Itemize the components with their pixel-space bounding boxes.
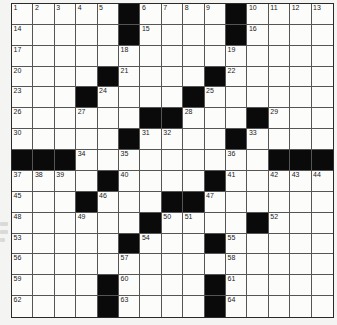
grid-cell[interactable]: 13 bbox=[312, 4, 333, 25]
grid-cell[interactable]: 9 bbox=[205, 4, 226, 25]
grid-cell[interactable] bbox=[269, 87, 290, 108]
grid-cell[interactable] bbox=[312, 46, 333, 67]
grid-cell[interactable] bbox=[312, 192, 333, 213]
grid-cell[interactable]: 62 bbox=[12, 296, 33, 317]
grid-cell[interactable] bbox=[162, 150, 183, 171]
grid-cell[interactable] bbox=[226, 213, 247, 234]
grid-cell[interactable] bbox=[33, 87, 54, 108]
grid-cell[interactable]: 55 bbox=[226, 234, 247, 255]
grid-cell[interactable] bbox=[140, 67, 161, 88]
grid-cell[interactable] bbox=[183, 296, 204, 317]
grid-cell[interactable] bbox=[33, 275, 54, 296]
grid-cell[interactable]: 3 bbox=[55, 4, 76, 25]
grid-cell[interactable]: 4 bbox=[76, 4, 97, 25]
grid-cell[interactable] bbox=[55, 46, 76, 67]
grid-cell[interactable] bbox=[269, 254, 290, 275]
grid-cell[interactable] bbox=[312, 87, 333, 108]
grid-cell[interactable] bbox=[226, 192, 247, 213]
grid-cell[interactable] bbox=[98, 234, 119, 255]
grid-cell[interactable]: 63 bbox=[119, 296, 140, 317]
grid-cell[interactable] bbox=[140, 87, 161, 108]
grid-cell[interactable]: 59 bbox=[12, 275, 33, 296]
grid-cell[interactable] bbox=[312, 67, 333, 88]
grid-cell[interactable] bbox=[247, 46, 268, 67]
grid-cell[interactable] bbox=[33, 129, 54, 150]
grid-cell[interactable]: 47 bbox=[205, 192, 226, 213]
grid-cell[interactable] bbox=[290, 46, 311, 67]
grid-cell[interactable]: 14 bbox=[12, 25, 33, 46]
grid-cell[interactable] bbox=[269, 67, 290, 88]
grid-cell[interactable]: 39 bbox=[55, 171, 76, 192]
grid-cell[interactable] bbox=[98, 254, 119, 275]
grid-cell[interactable] bbox=[140, 192, 161, 213]
grid-cell[interactable] bbox=[33, 67, 54, 88]
grid-cell[interactable] bbox=[247, 192, 268, 213]
grid-cell[interactable] bbox=[55, 254, 76, 275]
grid-cell[interactable]: 57 bbox=[119, 254, 140, 275]
grid-cell[interactable] bbox=[269, 296, 290, 317]
grid-cell[interactable]: 48 bbox=[12, 213, 33, 234]
grid-cell[interactable]: 61 bbox=[226, 275, 247, 296]
grid-cell[interactable]: 56 bbox=[12, 254, 33, 275]
grid-cell[interactable]: 11 bbox=[269, 4, 290, 25]
grid-cell[interactable] bbox=[247, 254, 268, 275]
grid-cell[interactable] bbox=[312, 296, 333, 317]
grid-cell[interactable] bbox=[119, 192, 140, 213]
grid-cell[interactable] bbox=[290, 192, 311, 213]
grid-cell[interactable] bbox=[162, 234, 183, 255]
grid-cell[interactable] bbox=[269, 234, 290, 255]
grid-cell[interactable] bbox=[205, 46, 226, 67]
grid-cell[interactable] bbox=[269, 192, 290, 213]
grid-cell[interactable]: 52 bbox=[269, 213, 290, 234]
grid-cell[interactable] bbox=[33, 108, 54, 129]
grid-cell[interactable]: 43 bbox=[290, 171, 311, 192]
grid-cell[interactable] bbox=[162, 254, 183, 275]
grid-cell[interactable] bbox=[183, 129, 204, 150]
grid-cell[interactable] bbox=[162, 25, 183, 46]
grid-cell[interactable] bbox=[55, 213, 76, 234]
grid-cell[interactable] bbox=[269, 25, 290, 46]
grid-cell[interactable] bbox=[76, 254, 97, 275]
grid-cell[interactable] bbox=[33, 213, 54, 234]
grid-cell[interactable] bbox=[33, 234, 54, 255]
grid-cell[interactable] bbox=[269, 129, 290, 150]
grid-cell[interactable] bbox=[98, 129, 119, 150]
grid-cell[interactable] bbox=[140, 296, 161, 317]
grid-cell[interactable] bbox=[290, 25, 311, 46]
grid-cell[interactable]: 54 bbox=[140, 234, 161, 255]
grid-cell[interactable] bbox=[162, 296, 183, 317]
grid-cell[interactable] bbox=[247, 67, 268, 88]
grid-cell[interactable] bbox=[247, 87, 268, 108]
grid-cell[interactable] bbox=[162, 275, 183, 296]
grid-cell[interactable] bbox=[183, 254, 204, 275]
grid-cell[interactable] bbox=[76, 129, 97, 150]
grid-cell[interactable] bbox=[205, 213, 226, 234]
grid-cell[interactable]: 50 bbox=[162, 213, 183, 234]
grid-cell[interactable] bbox=[33, 46, 54, 67]
grid-cell[interactable]: 22 bbox=[226, 67, 247, 88]
grid-cell[interactable] bbox=[55, 67, 76, 88]
grid-cell[interactable] bbox=[290, 275, 311, 296]
grid-cell[interactable] bbox=[312, 275, 333, 296]
grid-cell[interactable] bbox=[98, 213, 119, 234]
grid-cell[interactable]: 37 bbox=[12, 171, 33, 192]
grid-cell[interactable]: 1 bbox=[12, 4, 33, 25]
grid-cell[interactable] bbox=[183, 150, 204, 171]
grid-cell[interactable]: 16 bbox=[247, 25, 268, 46]
grid-cell[interactable] bbox=[140, 254, 161, 275]
grid-cell[interactable] bbox=[119, 87, 140, 108]
grid-cell[interactable] bbox=[247, 150, 268, 171]
grid-cell[interactable] bbox=[312, 234, 333, 255]
grid-cell[interactable] bbox=[290, 108, 311, 129]
grid-cell[interactable] bbox=[140, 150, 161, 171]
grid-cell[interactable] bbox=[312, 213, 333, 234]
grid-cell[interactable]: 58 bbox=[226, 254, 247, 275]
grid-cell[interactable] bbox=[33, 254, 54, 275]
grid-cell[interactable] bbox=[183, 275, 204, 296]
grid-cell[interactable] bbox=[119, 213, 140, 234]
grid-cell[interactable]: 36 bbox=[226, 150, 247, 171]
grid-cell[interactable] bbox=[76, 46, 97, 67]
grid-cell[interactable] bbox=[55, 275, 76, 296]
grid-cell[interactable] bbox=[162, 171, 183, 192]
grid-cell[interactable] bbox=[247, 275, 268, 296]
